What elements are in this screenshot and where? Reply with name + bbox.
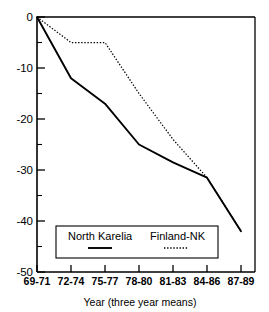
x-tick-label-5: 84-86 (194, 275, 221, 287)
x-tick-label-6: 87-89 (228, 275, 255, 287)
series-line-finland-nk (37, 17, 241, 231)
x-tick-label-3: 78-80 (126, 275, 153, 287)
x-axis-title: Year (three year means) (84, 296, 197, 308)
chart-container: 0 -10 -20 -30 -40 -50 69-71 72-74 75-77 … (0, 0, 269, 312)
x-tick-label-4: 81-83 (160, 275, 187, 287)
x-tick-label-2: 75-77 (92, 275, 119, 287)
y-tick-label-0: 0 (27, 11, 33, 23)
chart-legend: North Karelia Finland-NK (56, 226, 218, 258)
x-tick-label-0: 69-71 (24, 275, 51, 287)
legend-label-north-karelia: North Karelia (68, 230, 133, 242)
y-tick-label-2: -20 (16, 113, 33, 125)
x-axis-tick-labels: 69-71 72-74 75-77 78-80 81-83 84-86 87-8… (24, 275, 255, 287)
x-tick-label-1: 72-74 (58, 275, 85, 287)
line-chart-svg: 0 -10 -20 -30 -40 -50 69-71 72-74 75-77 … (0, 0, 269, 312)
data-series-group (37, 17, 241, 231)
y-tick-label-4: -40 (16, 215, 33, 227)
legend-label-finland-nk: Finland-NK (150, 230, 206, 242)
y-axis-tick-labels: 0 -10 -20 -30 -40 -50 (16, 11, 33, 278)
series-line-north-karelia (37, 17, 241, 231)
y-tick-label-1: -10 (16, 62, 33, 74)
y-tick-label-3: -30 (16, 164, 33, 176)
x-axis-ticks (37, 265, 241, 272)
